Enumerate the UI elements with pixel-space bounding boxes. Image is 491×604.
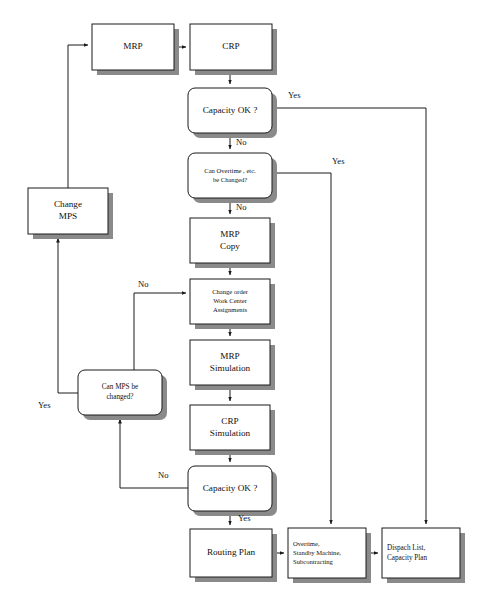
flowchart-canvas: MRPCRPCapacity OK ?Can Overtime , etc.be… bbox=[0, 0, 491, 604]
node-label: Can Overtime , etc. bbox=[204, 167, 256, 174]
node-overtime_box: Overtime,Standby Machine,Subcontracting bbox=[288, 528, 371, 583]
node-label: Simulation bbox=[210, 428, 251, 438]
edge-label-yes-overtime: Yes bbox=[332, 156, 345, 166]
node-change_order: Change orderWork CenterAssignments bbox=[190, 279, 275, 329]
node-label: MRP bbox=[220, 351, 239, 361]
node-label: Subcontracting bbox=[293, 558, 334, 565]
edge-can-mps-no-to-change-order bbox=[134, 293, 186, 370]
node-mrp_sim: MRPSimulation bbox=[190, 340, 275, 390]
node-change_mps: ChangeMPS bbox=[28, 188, 113, 239]
node-label: MRP bbox=[123, 41, 142, 51]
node-label: Capacity Plan bbox=[387, 554, 428, 562]
edge-capacity2-no-to-can-mps bbox=[120, 419, 188, 488]
edge-overtime-question-yes-to-overtime-box bbox=[272, 173, 331, 524]
node-routing_plan: Routing Plan bbox=[190, 529, 277, 582]
node-crp: CRP bbox=[190, 24, 277, 75]
node-label: Assignments bbox=[213, 306, 248, 313]
node-cap_ok_1: Capacity OK ? bbox=[188, 88, 277, 138]
node-label: MRP bbox=[220, 229, 239, 239]
edge-changemps-to-mrp bbox=[68, 45, 88, 188]
edge-label-yes-cap1: Yes bbox=[288, 90, 301, 100]
node-cap_ok_2: Capacity OK ? bbox=[188, 466, 277, 516]
node-label: CRP bbox=[221, 416, 238, 426]
edge-label-yes-canmps: Yes bbox=[38, 400, 51, 410]
node-label: Overtime, bbox=[293, 540, 320, 547]
node-label: Can MPS be bbox=[102, 383, 138, 391]
node-label: Standby Machine, bbox=[293, 549, 341, 556]
node-can_mps: Can MPS bechanged? bbox=[78, 370, 167, 420]
edge-label-yes-cap2: Yes bbox=[238, 513, 251, 523]
node-mrp_copy: MRPCopy bbox=[190, 218, 275, 268]
node-label: Change order bbox=[212, 288, 249, 295]
node-label: Dispach List, bbox=[387, 544, 426, 552]
node-label: Routing Plan bbox=[207, 547, 256, 557]
node-label: be Changed? bbox=[213, 176, 247, 183]
node-label: Change bbox=[54, 199, 82, 209]
edge-can-mps-yes-to-change-mps bbox=[58, 238, 78, 393]
node-label: MPS bbox=[59, 211, 77, 221]
edge-label-no-changeord: No bbox=[138, 279, 149, 289]
node-label: Capacity OK ? bbox=[203, 105, 258, 115]
node-label: Capacity OK ? bbox=[203, 483, 258, 493]
node-label: Simulation bbox=[210, 363, 251, 373]
edge-label-no-cap1: No bbox=[236, 137, 247, 147]
node-label: Work Center bbox=[213, 297, 248, 304]
node-label: Copy bbox=[220, 241, 240, 251]
node-dispatch_box: Dispach List,Capacity Plan bbox=[382, 528, 465, 583]
node-label: CRP bbox=[222, 41, 239, 51]
edge-label-no-overtime: No bbox=[236, 202, 247, 212]
edge-capacity1-yes-to-dispatch bbox=[272, 108, 426, 524]
node-crp_sim: CRPSimulation bbox=[190, 405, 275, 455]
node-label: changed? bbox=[106, 393, 133, 401]
flowchart-svg: MRPCRPCapacity OK ?Can Overtime , etc.be… bbox=[0, 0, 491, 604]
edge-label-no-cap2: No bbox=[158, 470, 169, 480]
node-can_overtime: Can Overtime , etc.be Changed? bbox=[188, 153, 277, 203]
node-mrp: MRP bbox=[92, 24, 179, 75]
